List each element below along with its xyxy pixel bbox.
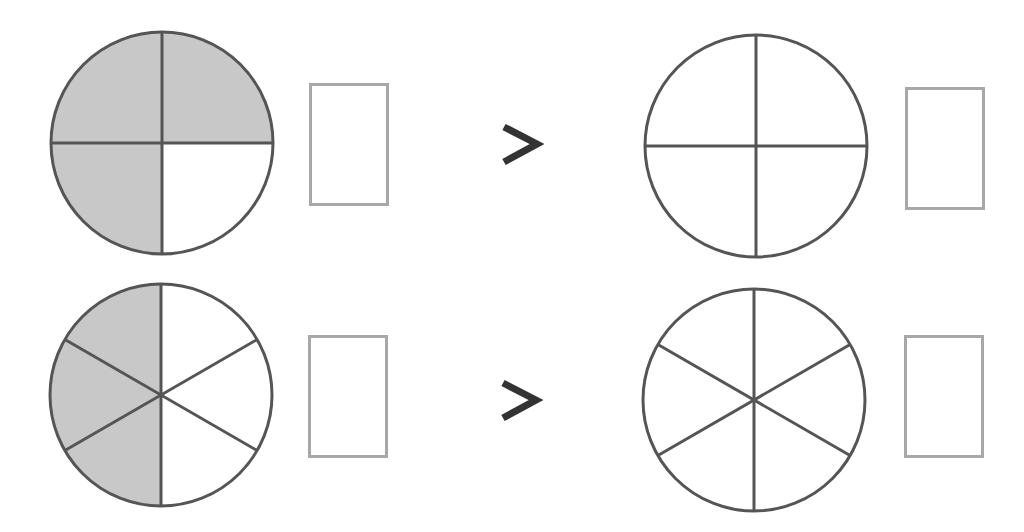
- circle-row2-left: [50, 284, 272, 506]
- circle-row1-left: [51, 32, 273, 254]
- answer-box-row1-right[interactable]: [905, 87, 985, 210]
- answer-box-row2-right[interactable]: [904, 335, 984, 458]
- greater-than-symbol-row2: [503, 383, 536, 418]
- fraction-diagram: [0, 0, 1024, 532]
- answer-box-row2-left[interactable]: [308, 335, 388, 458]
- greater-than-symbol-row1: [504, 127, 537, 162]
- circle-row1-right: [645, 35, 867, 257]
- answer-box-row1-left[interactable]: [309, 83, 389, 206]
- circle-row2-right: [643, 289, 865, 511]
